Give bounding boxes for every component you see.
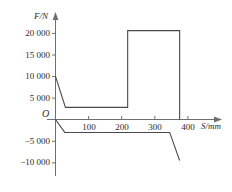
x-tick-label-200: 200 [111, 123, 133, 132]
x-tick-label-300: 300 [144, 123, 166, 132]
x-axis-title: S/mm [201, 122, 221, 131]
x-axis-ticks [89, 116, 188, 120]
y-axis-arrow-icon [53, 12, 59, 20]
x-tick-label-400: 400 [177, 123, 199, 132]
y-tick-label-5000: 5 000 [6, 94, 50, 103]
y-tick-label-10000: 10 000 [6, 72, 50, 81]
x-tick-label-100: 100 [78, 123, 100, 132]
y-tick-label-15000: 15 000 [6, 51, 50, 60]
y-axis-title: F/N [34, 12, 48, 21]
y-tick-label-minus-10000: −10 000 [4, 158, 50, 167]
y-axis-ticks [52, 33, 56, 163]
y-tick-label-minus-5000: −5 000 [4, 137, 50, 146]
force-displacement-chart: 20 000 15 000 10 000 5 000 −5 000 −10 00… [0, 0, 232, 192]
y-tick-label-20000: 20 000 [6, 29, 50, 38]
upper-force-curve [56, 31, 180, 120]
origin-label: O [42, 109, 49, 119]
